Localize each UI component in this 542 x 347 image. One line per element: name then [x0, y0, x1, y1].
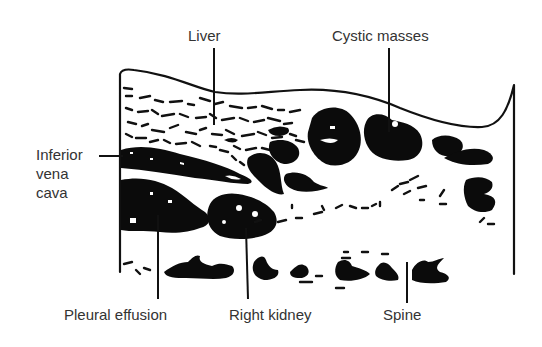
ultrasound-diagram: Liver Cystic masses Inferior vena cava P… — [0, 0, 542, 347]
inferior-vena-cava-shape — [121, 147, 252, 184]
right-kidney-shape — [207, 193, 276, 239]
label-ivc-line1: Inferior — [36, 146, 83, 163]
label-cystic-masses: Cystic masses — [332, 27, 429, 44]
pleural-effusion-shape — [121, 178, 209, 232]
label-spine: Spine — [383, 306, 421, 323]
label-pleural-effusion: Pleural effusion — [64, 306, 167, 323]
label-ivc-line3: cava — [36, 184, 68, 201]
spine-echoes — [124, 252, 449, 288]
label-right-kidney: Right kidney — [229, 306, 312, 323]
cystic-masses-shapes — [308, 108, 496, 212]
label-ivc-line2: vena — [36, 165, 69, 182]
leader-lines — [99, 48, 407, 303]
label-liver: Liver — [188, 27, 221, 44]
